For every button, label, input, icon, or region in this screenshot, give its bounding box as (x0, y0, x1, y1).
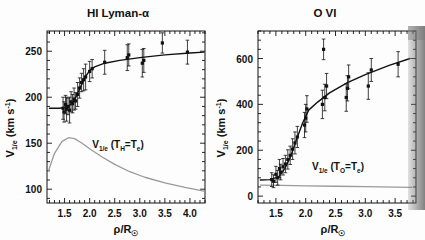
model-curve-to-te (260, 185, 411, 187)
panel-title: O VI (313, 7, 336, 19)
x-tick-label: 1.5 (269, 208, 283, 219)
data-point (272, 180, 275, 183)
scan-edge-artifact (408, 26, 425, 210)
x-tick-label: 3.0 (358, 208, 372, 219)
y-axis-label-close: ) (4, 98, 16, 102)
panel-hi-lyman-alpha: HI Lyman-α V1/e (km s-1) ρ/R☉ 1.52.02.53… (0, 0, 213, 240)
data-point (68, 109, 71, 112)
scan-corner-artifact (408, 26, 425, 40)
svg-text:V1/e (km s-1): V1/e (km s-1) (215, 98, 229, 157)
data-point (278, 167, 281, 170)
y-axis-label-sub: 1/e (11, 140, 18, 150)
data-point (347, 75, 350, 78)
svg-text:V1/e (km s-1): V1/e (km s-1) (4, 98, 18, 157)
figure-root: HI Lyman-α V1/e (km s-1) ρ/R☉ 1.52.02.53… (0, 0, 425, 240)
data-point (367, 84, 370, 87)
model-curve-to-te (260, 185, 411, 187)
plot-frame (258, 31, 416, 203)
data-point (274, 173, 277, 176)
data-point (303, 123, 306, 126)
plot-o-vi: O VI V1/e (km s-1) ρ/R☉ 1.52.02.53.03.50… (213, 0, 425, 240)
x-tick-label: 2.0 (83, 208, 97, 219)
data-points (61, 41, 189, 113)
y-tick-label: 100 (25, 184, 42, 195)
panel-title: HI Lyman-α (87, 7, 149, 19)
y-tick-label: 0 (247, 191, 253, 202)
y-tick-label: 600 (236, 54, 253, 65)
x-tick-label: 3.5 (388, 208, 402, 219)
y-axis-label-sub: 1/e (222, 140, 229, 150)
data-point (325, 84, 328, 87)
annot-eq: =T (125, 139, 137, 150)
axis-ticks (258, 31, 416, 203)
inline-annotation-th-te: V1/e (TH=Te) (92, 139, 144, 152)
x-tick-label: 4.0 (183, 208, 197, 219)
x-tick-label: 1.5 (58, 208, 72, 219)
x-axis-label-main: ρ/R (114, 223, 132, 235)
data-point (346, 87, 349, 90)
x-axis-label-sub: ☉ (338, 229, 345, 238)
x-tick-label: 3.5 (158, 208, 172, 219)
y-tick-label: 150 (25, 138, 42, 149)
x-axis-label: ρ/R☉ (114, 223, 139, 238)
data-point (65, 108, 68, 111)
axis-tick-labels: 1.52.02.53.03.50200400600 (236, 54, 402, 219)
data-point (142, 59, 145, 62)
annot-close: ) (140, 139, 143, 150)
annot-sub: 1/e (319, 167, 328, 174)
x-axis-label-main: ρ/R (321, 223, 339, 235)
annot-sub: 1/e (99, 145, 108, 152)
inline-annotation-to-te: V1/e (TO=Te) (312, 161, 364, 174)
y-axis-label-close: ) (215, 98, 227, 102)
panel-o-vi: O VI V1/e (km s-1) ρ/R☉ 1.52.02.53.03.50… (213, 0, 425, 240)
y-tick-label: 250 (25, 46, 42, 57)
y-axis-label-unit: (km s (4, 109, 16, 138)
data-point (321, 103, 324, 106)
plot-hi-lyman-alpha: HI Lyman-α V1/e (km s-1) ρ/R☉ 1.52.02.53… (0, 0, 213, 240)
x-tick-label: 2.5 (329, 208, 343, 219)
x-axis-label-sub: ☉ (131, 229, 138, 238)
y-tick-label: 200 (236, 145, 253, 156)
x-tick-label: 3.0 (133, 208, 147, 219)
annot-paren: (T (111, 139, 120, 150)
y-axis-label: V1/e (km s-1) (4, 98, 18, 157)
data-point (281, 165, 284, 168)
data-point (161, 41, 164, 44)
data-point (62, 110, 65, 113)
x-tick-label: 2.5 (108, 208, 122, 219)
data-point (322, 48, 325, 51)
y-tick-label: 200 (25, 92, 42, 103)
data-point (345, 96, 348, 99)
x-axis-label: ρ/R☉ (321, 223, 346, 238)
annot-eq: =T (345, 161, 357, 172)
error-bars (61, 33, 189, 123)
annot-close: ) (361, 161, 364, 172)
data-point (141, 62, 144, 65)
x-tick-label: 2.0 (299, 208, 313, 219)
annot-paren: (T (331, 161, 340, 172)
y-axis-label-unit: (km s (215, 109, 227, 138)
y-tick-label: 400 (236, 99, 253, 110)
axis-tick-labels: 1.52.02.53.03.54.0100150200250 (25, 46, 197, 219)
y-axis-label: V1/e (km s-1) (215, 98, 229, 157)
data-point (127, 53, 130, 56)
